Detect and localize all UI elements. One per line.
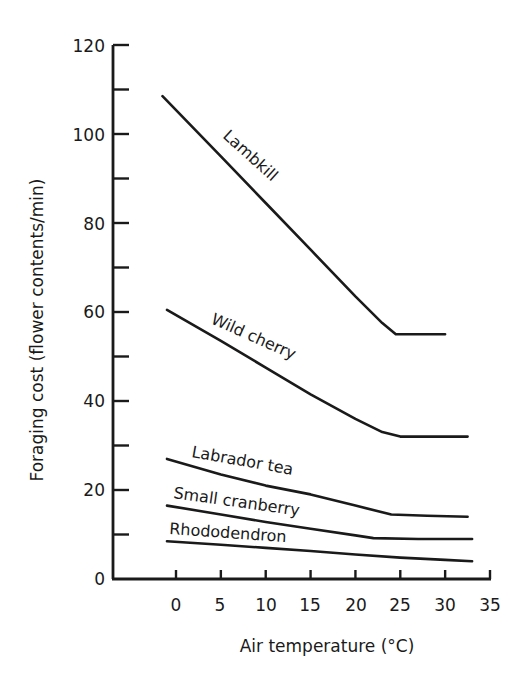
y-axis-ticks bbox=[113, 45, 129, 535]
y-tick-label-100: 100 bbox=[73, 125, 105, 145]
y-tick-label-120: 120 bbox=[73, 36, 105, 56]
y-tick-label-80: 80 bbox=[83, 214, 105, 234]
series-line-wild-cherry bbox=[167, 310, 468, 437]
series-label-labrador-tea: Labrador tea bbox=[190, 442, 295, 479]
x-tick-label-15: 15 bbox=[299, 595, 321, 615]
x-tick-labels: 0 5 10 15 20 25 30 35 bbox=[171, 595, 501, 615]
x-tick-label-0: 0 bbox=[171, 595, 182, 615]
y-tick-labels: 0 20 40 60 80 100 120 bbox=[73, 36, 105, 589]
x-tick-label-10: 10 bbox=[255, 595, 277, 615]
y-tick-label-40: 40 bbox=[83, 391, 105, 411]
series-line-lambkill bbox=[163, 96, 446, 334]
chart-canvas: 0 20 40 60 80 100 120 0 5 10 15 20 25 30… bbox=[0, 0, 529, 685]
series-label-lambkill: Lambkill bbox=[219, 126, 282, 185]
x-tick-label-5: 5 bbox=[215, 595, 226, 615]
x-tick-label-30: 30 bbox=[434, 595, 456, 615]
y-tick-label-20: 20 bbox=[83, 480, 105, 500]
x-axis-title: Air temperature (°C) bbox=[240, 636, 415, 656]
y-tick-label-60: 60 bbox=[83, 302, 105, 322]
series-label-wild-cherry: Wild cherry bbox=[208, 309, 299, 363]
y-axis-title: Foraging cost (flower contents/min) bbox=[27, 179, 47, 482]
x-tick-label-35: 35 bbox=[479, 595, 501, 615]
x-tick-label-20: 20 bbox=[345, 595, 367, 615]
y-tick-label-0: 0 bbox=[94, 569, 105, 589]
series-line-rhododendron bbox=[167, 541, 472, 561]
x-tick-label-25: 25 bbox=[389, 595, 411, 615]
series-labels: Lambkill Wild cherry Labrador tea Small … bbox=[169, 126, 301, 546]
